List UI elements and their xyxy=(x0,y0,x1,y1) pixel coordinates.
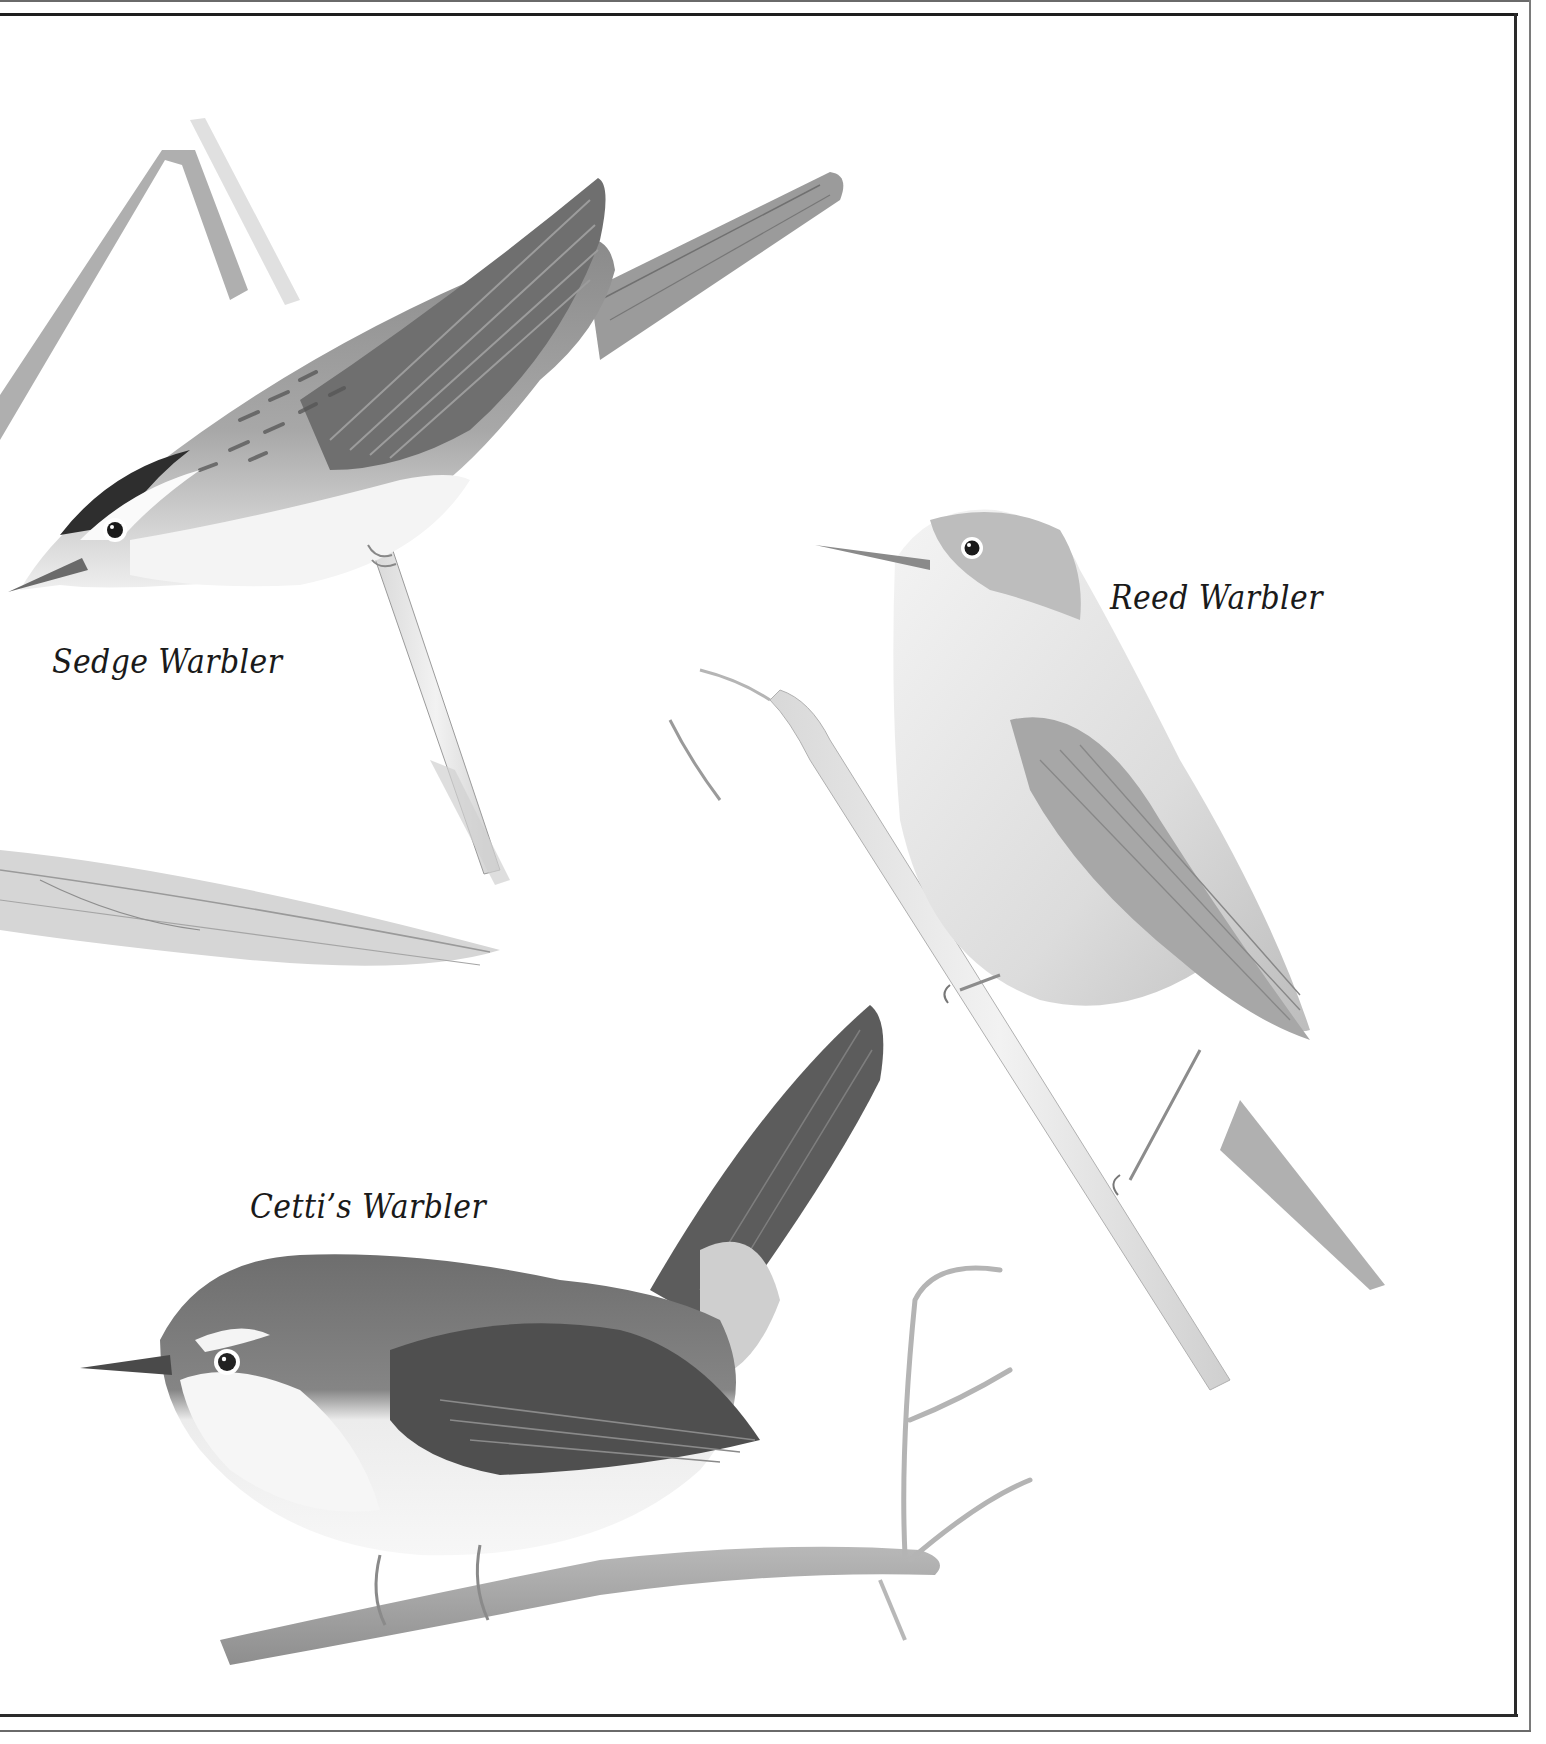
wing-study-illustration xyxy=(0,850,500,966)
sedge-warbler-label: Sedge Warbler xyxy=(52,641,282,681)
cettis-warbler-illustration xyxy=(80,1005,1030,1665)
bird-illustrations xyxy=(0,0,1546,1744)
sedge-warbler-illustration xyxy=(0,118,843,885)
reed-warbler-label: Reed Warbler xyxy=(1110,577,1323,617)
cettis-warbler-label: Cetti’s Warbler xyxy=(250,1186,486,1226)
reed-warbler-illustration xyxy=(670,510,1385,1390)
illustration-plate: Sedge Warbler Reed Warbler Cetti’s Warbl… xyxy=(0,0,1546,1744)
